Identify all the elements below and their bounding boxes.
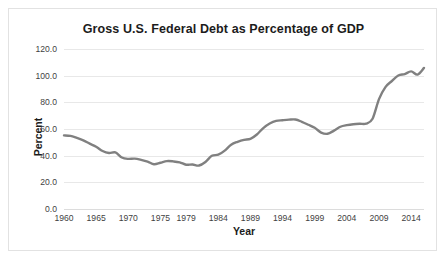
y-axis-tick-label: 100.0: [35, 71, 57, 81]
y-axis-tick-label: 120.0: [35, 44, 57, 54]
gridline: [64, 209, 424, 210]
x-axis-tick-label: 1989: [241, 213, 260, 223]
series-line-chart: [64, 49, 424, 209]
x-axis-tick-label: 1965: [87, 213, 106, 223]
x-axis-tick-label: 1984: [209, 213, 228, 223]
x-axis-title: Year: [64, 225, 424, 237]
x-axis-tick-label: 2004: [337, 213, 356, 223]
x-axis-tick-label: 2014: [402, 213, 421, 223]
series-line-path: [64, 68, 424, 166]
x-axis-tick-label: 1999: [305, 213, 324, 223]
x-axis-tick-label: 1994: [273, 213, 292, 223]
y-axis-title: Percent: [19, 57, 58, 217]
y-axis-tick-label: 60.0: [40, 124, 57, 134]
x-axis-tick-label: 1979: [177, 213, 196, 223]
x-axis-tick-label: 1970: [119, 213, 138, 223]
y-axis-tick-label: 40.0: [40, 151, 57, 161]
chart-title: Gross U.S. Federal Debt as Percentage of…: [9, 22, 437, 36]
y-axis-tick-label: 20.0: [40, 177, 57, 187]
y-axis-tick-label: 80.0: [40, 97, 57, 107]
x-axis-tick-label: 2009: [369, 213, 388, 223]
chart-container: Gross U.S. Federal Debt as Percentage of…: [8, 8, 437, 251]
x-axis-tick-label: 1960: [54, 213, 73, 223]
x-axis-tick-label: 1975: [151, 213, 170, 223]
plot-area: 0.020.040.060.080.0100.0120.0 1960196519…: [64, 49, 424, 209]
